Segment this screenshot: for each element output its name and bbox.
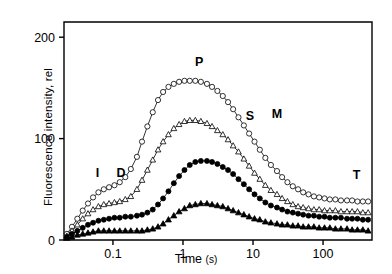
data-point-marker [91,220,96,225]
data-point-marker [225,100,230,105]
data-point-marker [106,228,112,233]
data-point-marker [338,198,343,203]
data-point-marker [107,216,112,221]
data-point-marker [247,131,252,136]
data-point-marker [280,207,285,212]
data-point-marker [365,210,371,215]
data-point-marker [290,210,295,215]
data-point-marker [306,192,311,197]
data-point-marker [166,84,171,89]
data-point-marker [128,214,133,219]
data-point-marker [90,207,96,212]
data-point-marker [176,79,181,84]
data-point-marker [263,155,268,160]
data-point-marker [350,216,355,221]
data-point-marker [166,189,171,194]
data-point-marker [236,115,241,120]
data-point-marker [96,218,101,223]
data-point-marker [101,217,106,222]
annotation-I: I [96,166,99,180]
data-point-marker [85,201,90,206]
data-point-marker [268,203,273,208]
data-point-marker [263,200,268,205]
data-point-marker [231,172,236,177]
fluorescence-induction-chart: 01002000.1110100IDPSMT [0,0,392,274]
annotation-M: M [272,107,282,121]
data-point-marker [75,216,80,221]
data-point-marker [177,174,182,179]
data-point-marker [80,225,85,230]
data-point-marker [134,228,140,233]
data-point-marker [344,226,350,231]
data-point-marker [112,215,117,220]
data-point-marker [257,147,262,152]
data-point-marker [366,217,371,222]
data-point-marker [117,228,123,233]
data-point-marker [134,154,139,159]
data-point-marker [345,216,350,221]
data-point-marker [193,159,198,164]
data-point-marker [274,191,280,196]
y-axis-label: Fluorescence intensity, rel [42,37,54,237]
data-point-marker [311,194,316,199]
data-point-marker [306,213,311,218]
data-point-marker [204,158,209,163]
data-point-marker [106,185,111,190]
data-point-marker [301,212,306,217]
data-point-marker [215,161,220,166]
data-point-marker [295,187,300,192]
data-point-marker [101,187,106,192]
data-point-marker [295,223,301,228]
data-point-marker [117,215,122,220]
data-point-marker [317,195,322,200]
data-point-marker [285,198,291,203]
data-point-marker [90,195,95,200]
data-point-marker [209,84,214,89]
data-point-marker [241,123,246,128]
annotation-P: P [195,55,203,69]
data-point-marker [344,209,350,214]
data-point-marker [128,228,134,233]
data-point-marker [160,89,165,94]
data-point-marker [128,166,133,171]
data-point-marker [252,139,257,144]
data-point-marker [306,224,312,229]
data-point-marker [285,209,290,214]
data-point-marker [316,207,322,212]
data-point-marker [140,212,145,217]
data-point-marker [215,127,221,132]
data-point-marker [220,93,225,98]
data-point-marker [236,177,241,182]
data-point-marker [187,117,193,122]
data-point-marker [156,202,161,207]
data-point-marker [155,97,160,102]
annotation-D: D [116,166,125,180]
data-point-marker [198,200,204,205]
data-point-marker [220,164,225,169]
data-point-marker [215,88,220,93]
data-point-marker [80,208,85,213]
data-point-marker [123,214,128,219]
annotation-T: T [353,168,361,182]
data-point-marker [171,81,176,86]
data-point-marker [145,124,150,129]
x-axis-unit: (s) [206,254,218,265]
data-point-marker [150,157,156,162]
data-point-marker [220,132,226,137]
data-point-marker [139,139,144,144]
data-point-marker [95,228,101,233]
data-point-marker [290,202,296,207]
data-point-marker [134,186,140,191]
data-point-marker [327,197,332,202]
data-point-marker [333,208,339,213]
data-point-marker [284,222,290,227]
data-point-marker [171,125,177,130]
data-point-marker [252,192,257,197]
data-point-marker [349,209,355,214]
data-point-marker [165,217,171,222]
data-point-marker [231,107,236,112]
data-point-marker [101,228,107,233]
data-point-marker [360,227,366,232]
data-point-marker [85,222,90,227]
data-point-marker [338,226,344,231]
